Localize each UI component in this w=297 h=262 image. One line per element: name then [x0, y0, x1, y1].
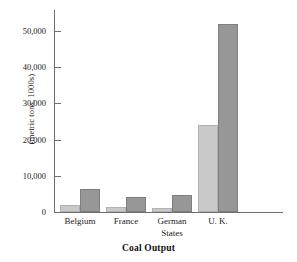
bar — [80, 189, 100, 212]
chart-title: Coal Output — [0, 243, 297, 253]
x-category-label: German States — [150, 216, 194, 239]
x-category-label: U. K. — [196, 216, 240, 228]
plot-area: 010,00020,00030,00040,00050,000 BelgiumF… — [54, 10, 283, 213]
y-tick-label: 20,000 — [23, 135, 46, 145]
y-tick-label: 0 — [42, 207, 46, 217]
bar — [152, 208, 172, 212]
bar — [60, 205, 80, 212]
y-tick-label: 30,000 — [23, 98, 46, 108]
bar — [126, 197, 146, 212]
bar — [198, 125, 218, 212]
x-category-label: Belgium — [58, 216, 102, 228]
y-tick-mark — [55, 212, 61, 213]
bar — [172, 195, 192, 212]
y-tick-label: 50,000 — [23, 26, 46, 36]
y-tick-label: 40,000 — [23, 62, 46, 72]
y-axis-title: (metric tons, 1000s) — [26, 34, 36, 184]
y-tick-mark — [55, 140, 61, 141]
bar — [218, 24, 238, 212]
y-tick-label: 10,000 — [23, 171, 46, 181]
x-axis-line — [54, 212, 283, 213]
y-tick-mark — [55, 31, 61, 32]
coal-output-bar-chart: (metric tons, 1000s) 010,00020,00030,000… — [0, 0, 297, 262]
bar — [106, 207, 126, 212]
y-axis-line — [54, 10, 55, 213]
y-tick-mark — [55, 103, 61, 104]
y-tick-mark — [55, 176, 61, 177]
x-category-label: France — [104, 216, 148, 228]
y-tick-mark — [55, 67, 61, 68]
